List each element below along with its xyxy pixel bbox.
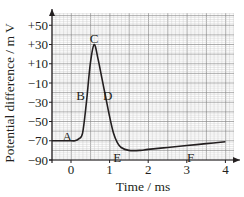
point-label-e: E	[113, 150, 121, 165]
point-label-d: D	[103, 88, 112, 103]
y-tick-label: −50	[28, 114, 48, 129]
y-axis-ticks: +50+30+10−10−30−50−70−90	[28, 18, 52, 168]
point-label-c: C	[90, 31, 99, 46]
y-tick-label: +50	[28, 18, 48, 33]
x-tick-label: 0	[68, 162, 75, 177]
point-label-a: A	[62, 129, 72, 144]
y-tick-label: +30	[28, 37, 48, 52]
x-tick-label: 2	[145, 162, 152, 177]
x-axis-label: Time / ms	[116, 179, 170, 194]
point-label-f: F	[187, 150, 194, 165]
x-tick-label: 4	[222, 162, 229, 177]
point-labels: ABCDEF	[62, 31, 194, 165]
y-tick-label: −30	[28, 95, 48, 110]
y-tick-label: +10	[28, 56, 48, 71]
y-tick-label: −10	[28, 76, 48, 91]
x-axis-ticks: 01234	[68, 160, 229, 177]
y-tick-label: −70	[28, 133, 48, 148]
point-label-b: B	[76, 88, 85, 103]
y-tick-label: −90	[28, 153, 48, 168]
x-tick-label: 1	[106, 162, 113, 177]
action-potential-chart: +50+30+10−10−30−50−70−90 01234 ABCDEF Ti…	[0, 0, 244, 197]
y-axis-label: Potential difference / m V	[2, 23, 17, 163]
